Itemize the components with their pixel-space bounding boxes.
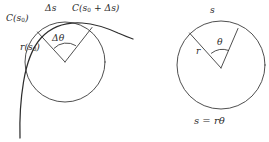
label-radius-of-curvature: r(s0) <box>20 42 40 52</box>
label-radius-r: r <box>196 46 200 55</box>
label-arc-length-delta-s: Δs <box>45 3 56 12</box>
radius-line-end <box>65 28 92 63</box>
angle-arc-theta <box>211 49 228 53</box>
label-angle-delta-theta: Δθ <box>52 33 64 42</box>
label-point-start: C(s0) <box>6 13 29 23</box>
left-panel-group <box>20 22 133 138</box>
label-arc-length-s: s <box>210 5 215 14</box>
formula-arc-length: s = rθ <box>194 116 225 126</box>
radius-line-right <box>221 29 238 69</box>
label-point-end: C(s0 + Δs) <box>72 3 119 13</box>
figure-drawing <box>0 0 269 142</box>
angle-arc-delta-theta <box>54 43 75 48</box>
right-panel-group <box>177 21 265 109</box>
figure-container: C(s0) Δs C(s0 + Δs) r(s0) Δθ s r θ s = r… <box>0 0 269 142</box>
label-angle-theta: θ <box>217 37 223 46</box>
